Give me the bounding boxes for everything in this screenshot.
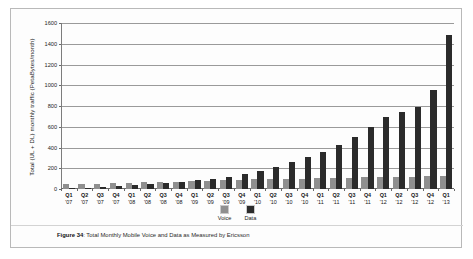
- x-axis-tick-label: Q1'08: [126, 189, 138, 206]
- figure-caption-number: Figure 34: [57, 232, 83, 238]
- x-axis-tick-label: Q3'12: [409, 189, 421, 206]
- bar-data: [415, 107, 421, 189]
- bar-group: [157, 23, 169, 189]
- x-axis-quarter: Q1: [126, 189, 138, 199]
- x-axis-quarter: Q1: [63, 189, 75, 199]
- bar-group: [377, 23, 389, 189]
- bar-group: [173, 23, 185, 189]
- bar-data: [210, 179, 216, 189]
- bar-group: [63, 23, 75, 189]
- bar-group: [204, 23, 216, 189]
- x-axis-quarter: Q1: [188, 189, 200, 199]
- x-axis-tick-mark: [423, 189, 424, 191]
- bar-data: [383, 117, 389, 189]
- bar-group: [94, 23, 106, 189]
- bar-data: [242, 174, 248, 189]
- x-axis-tick-mark: [375, 189, 376, 191]
- x-axis-tick-mark: [391, 189, 392, 191]
- x-axis-tick-mark: [61, 189, 62, 191]
- figure-container: Total (UL + DL) monthly traffic (PetaByt…: [10, 8, 462, 248]
- x-axis-tick-label: Q4'09: [236, 189, 248, 206]
- legend-label-data: Data: [244, 215, 256, 221]
- x-axis-quarter: Q3: [409, 189, 421, 199]
- x-axis-tick-label: Q2'08: [141, 189, 153, 206]
- caption-bar: Figure 34: Total Monthly Mobile Voice an…: [11, 225, 463, 248]
- bar-group: [188, 23, 200, 189]
- y-axis-tick-label: 1400: [45, 41, 57, 47]
- x-axis-tick-mark: [108, 189, 109, 191]
- x-axis-tick-label: Q1'09: [188, 189, 200, 206]
- y-axis-tick-label: 1000: [45, 82, 57, 88]
- x-axis-tick-mark: [171, 189, 172, 191]
- bar-group: [141, 23, 153, 189]
- x-axis-quarter: Q2: [393, 189, 405, 199]
- x-axis-tick-mark: [297, 189, 298, 191]
- x-axis-quarter: Q3: [157, 189, 169, 199]
- x-axis-tick-label: Q1'10: [251, 189, 263, 206]
- y-axis-title: Total (UL + DL) monthly traffic (PetaByt…: [25, 0, 39, 31]
- y-axis-title-label: Total (UL + DL) monthly traffic (PetaByt…: [25, 31, 39, 183]
- x-axis-quarter: Q3: [94, 189, 106, 199]
- bar-group: [126, 23, 138, 189]
- x-axis-tick-label: Q1'11: [314, 189, 326, 206]
- x-axis-quarter: Q4: [424, 189, 436, 199]
- bar-group: [346, 23, 358, 189]
- bar-data: [446, 35, 452, 189]
- x-axis-quarter: Q2: [141, 189, 153, 199]
- y-axis-tick-label: 800: [48, 103, 57, 109]
- x-axis-tick-label: Q3'11: [346, 189, 358, 206]
- x-axis-tick-label: Q2'09: [204, 189, 216, 206]
- bar-group: [440, 23, 452, 189]
- bar-chart: Total (UL + DL) monthly traffic (PetaByt…: [11, 9, 463, 207]
- x-axis-tick-mark: [313, 189, 314, 191]
- x-axis-tick-mark: [360, 189, 361, 191]
- x-axis-quarter: Q4: [299, 189, 311, 199]
- x-axis-quarter: Q3: [283, 189, 295, 199]
- bar-data: [226, 177, 232, 189]
- x-axis-quarter: Q4: [110, 189, 122, 199]
- x-axis-tick-mark: [281, 189, 282, 191]
- x-axis-tick-mark: [77, 189, 78, 191]
- bar-group: [78, 23, 90, 189]
- x-axis-tick-label: Q3'10: [283, 189, 295, 206]
- x-axis-tick-mark: [124, 189, 125, 191]
- figure-caption-text: : Total Monthly Mobile Voice and Data as…: [83, 232, 249, 238]
- bar-group: [330, 23, 342, 189]
- x-axis-tick-label: Q2'07: [78, 189, 90, 206]
- bar-data: [430, 90, 436, 189]
- x-axis-tick-mark: [202, 189, 203, 191]
- bar-data: [305, 157, 311, 189]
- x-axis-tick-label: Q4'12: [424, 189, 436, 206]
- x-axis-quarter: Q4: [361, 189, 373, 199]
- legend-label-voice: Voice: [218, 215, 232, 221]
- x-axis-tick-label: Q4'11: [361, 189, 373, 206]
- bar-group: [236, 23, 248, 189]
- x-axis-quarter: Q1: [251, 189, 263, 199]
- x-axis-tick-label: Q2'10: [267, 189, 279, 206]
- x-axis-tick-mark: [92, 189, 93, 191]
- bar-series-container: Q1'07Q2'07Q3'07Q4'07Q1'08Q2'08Q3'08Q4'08…: [61, 23, 454, 189]
- x-axis-tick-label: Q2'11: [330, 189, 342, 206]
- x-axis-quarter: Q2: [78, 189, 90, 199]
- bar-data: [289, 162, 295, 189]
- chart-legend: VoiceData: [11, 205, 463, 221]
- x-axis-quarter: Q1: [377, 189, 389, 199]
- bar-data: [336, 145, 342, 189]
- x-axis-tick-label: Q3'08: [157, 189, 169, 206]
- bar-group: [110, 23, 122, 189]
- bar-group: [267, 23, 279, 189]
- figure-caption: Figure 34: Total Monthly Mobile Voice an…: [57, 232, 249, 238]
- x-axis-tick-mark: [140, 189, 141, 191]
- x-axis-quarter: Q3: [346, 189, 358, 199]
- bar-data: [257, 171, 263, 189]
- bar-group: [409, 23, 421, 189]
- bar-data: [179, 182, 185, 189]
- bar-data: [273, 167, 279, 189]
- x-axis-tick-mark: [344, 189, 345, 191]
- x-axis-tick-label: Q2'12: [393, 189, 405, 206]
- x-axis-quarter: Q2: [267, 189, 279, 199]
- x-axis-tick-label: Q4'07: [110, 189, 122, 206]
- x-axis-tick-mark: [265, 189, 266, 191]
- x-axis-tick-mark: [250, 189, 251, 191]
- legend-item-voice: Voice: [218, 205, 232, 221]
